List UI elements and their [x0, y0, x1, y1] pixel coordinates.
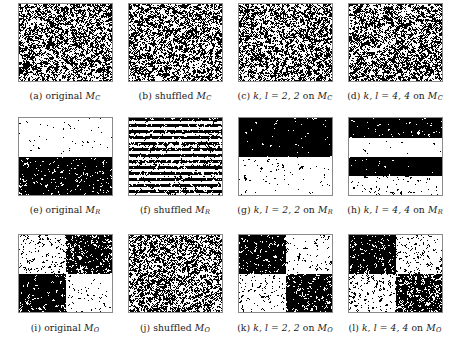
- panel-d: (d) k, l = 4, 4 on MC: [340, 0, 450, 114]
- panel-tag-e: (e): [30, 204, 43, 215]
- panel-symbol-g: M: [318, 204, 328, 215]
- panel-e: (e) original MR: [10, 114, 120, 228]
- matrix-canvas-l: [349, 235, 442, 312]
- panel-i: (i) original MO: [10, 228, 120, 342]
- panel-l: (l) k, l = 4, 4 on MO: [340, 228, 450, 342]
- matrix-image-c: [238, 3, 333, 82]
- panel-symbol-c: M: [317, 90, 327, 101]
- matrix-image-l: [348, 234, 443, 313]
- panel-tag-g: (g): [237, 204, 250, 215]
- panel-caption-f: (f) shuffled MR: [120, 204, 230, 218]
- panel-symbol-j: M: [195, 322, 205, 333]
- matrix-canvas-a: [19, 4, 112, 81]
- panel-label-h: on: [413, 204, 425, 215]
- panel-caption-h: (h) k, l = 4, 4 on MR: [340, 204, 450, 218]
- matrix-image-f: [128, 117, 223, 196]
- matrix-canvas-h: [349, 118, 442, 195]
- panel-label-a: original: [46, 90, 83, 101]
- matrix-canvas-b: [129, 4, 222, 81]
- panel-subscript-e: R: [95, 208, 100, 216]
- panel-tag-h: (h): [347, 204, 360, 215]
- panel-label-d: on: [413, 90, 425, 101]
- panel-tag-b: (b): [139, 90, 152, 101]
- panel-subscript-c: C: [327, 94, 332, 102]
- panel-subscript-g: R: [328, 208, 333, 216]
- panel-caption-a: (a) original MC: [10, 90, 120, 104]
- matrix-canvas-d: [349, 4, 442, 81]
- matrix-canvas-c: [239, 4, 332, 81]
- matrix-image-a: [18, 3, 113, 82]
- panel-symbol-l: M: [426, 322, 436, 333]
- panel-h: (h) k, l = 4, 4 on MR: [340, 114, 450, 228]
- panel-kl-h: k, l = 4, 4: [364, 204, 411, 215]
- panel-symbol-f: M: [195, 204, 205, 215]
- matrix-image-g: [238, 117, 333, 196]
- panel-j: (j) shuffled MO: [120, 228, 230, 342]
- panel-tag-k: (k): [237, 322, 250, 333]
- matrix-canvas-i: [19, 235, 112, 312]
- panel-kl-k: k, l = 2, 2: [253, 322, 300, 333]
- panel-c: (c) k, l = 2, 2 on MC: [230, 0, 340, 114]
- matrix-image-k: [238, 234, 333, 313]
- figure-row-mr: (e) original MR (f) shuffled MR (g) k, l…: [0, 114, 461, 228]
- panel-symbol-e: M: [85, 204, 95, 215]
- panel-subscript-f: R: [205, 208, 210, 216]
- panel-tag-d: (d): [347, 90, 360, 101]
- panel-subscript-h: R: [438, 208, 443, 216]
- panel-label-b: shuffled: [155, 90, 193, 101]
- panel-caption-l: (l) k, l = 4, 4 on MO: [340, 322, 450, 336]
- panel-subscript-k: O: [327, 326, 333, 334]
- panel-symbol-a: M: [85, 90, 95, 101]
- panel-caption-e: (e) original MR: [10, 204, 120, 218]
- panel-tag-f: (f): [140, 204, 151, 215]
- panel-subscript-j: O: [205, 326, 211, 334]
- panel-tag-l: (l): [348, 322, 358, 333]
- panel-label-e: original: [46, 204, 83, 215]
- matrix-canvas-j: [129, 235, 222, 312]
- panel-g: (g) k, l = 2, 2 on MR: [230, 114, 340, 228]
- panel-caption-k: (k) k, l = 2, 2 on MO: [230, 322, 340, 336]
- figure-panel-grid: (a) original MC (b) shuffled MC (c) k, l…: [0, 0, 461, 364]
- panel-kl-l: k, l = 4, 4: [362, 322, 409, 333]
- matrix-canvas-k: [239, 235, 332, 312]
- panel-caption-b: (b) shuffled MC: [120, 90, 230, 104]
- panel-symbol-k: M: [317, 322, 327, 333]
- figure-row-mo: (i) original MO (j) shuffled MO (k) k, l…: [0, 228, 461, 352]
- panel-subscript-i: O: [94, 326, 100, 334]
- matrix-canvas-f: [129, 118, 222, 195]
- panel-label-i: original: [44, 322, 81, 333]
- panel-label-g: on: [303, 204, 315, 215]
- matrix-image-d: [348, 3, 443, 82]
- panel-tag-i: (i): [31, 322, 41, 333]
- matrix-image-j: [128, 234, 223, 313]
- matrix-image-e: [18, 117, 113, 196]
- panel-label-k: on: [303, 322, 315, 333]
- panel-subscript-a: C: [95, 94, 100, 102]
- figure-row-mc: (a) original MC (b) shuffled MC (c) k, l…: [0, 0, 461, 114]
- panel-a: (a) original MC: [10, 0, 120, 114]
- panel-f: (f) shuffled MR: [120, 114, 230, 228]
- panel-label-f: shuffled: [154, 204, 192, 215]
- panel-kl-g: k, l = 2, 2: [254, 204, 301, 215]
- panel-tag-j: (j): [140, 322, 150, 333]
- panel-caption-c: (c) k, l = 2, 2 on MC: [230, 90, 340, 104]
- panel-kl-d: k, l = 4, 4: [364, 90, 411, 101]
- panel-label-l: on: [411, 322, 423, 333]
- panel-label-j: shuffled: [153, 322, 191, 333]
- panel-subscript-l: O: [436, 326, 442, 334]
- matrix-image-i: [18, 234, 113, 313]
- panel-symbol-d: M: [428, 90, 438, 101]
- panel-caption-d: (d) k, l = 4, 4 on MC: [340, 90, 450, 104]
- matrix-image-h: [348, 117, 443, 196]
- panel-tag-c: (c): [238, 90, 251, 101]
- panel-kl-c: k, l = 2, 2: [253, 90, 300, 101]
- panel-tag-a: (a): [30, 90, 43, 101]
- matrix-canvas-g: [239, 118, 332, 195]
- panel-k: (k) k, l = 2, 2 on MO: [230, 228, 340, 342]
- panel-caption-i: (i) original MO: [10, 322, 120, 336]
- panel-label-c: on: [303, 90, 315, 101]
- panel-subscript-b: C: [206, 94, 211, 102]
- matrix-canvas-e: [19, 118, 112, 195]
- panel-b: (b) shuffled MC: [120, 0, 230, 114]
- panel-caption-j: (j) shuffled MO: [120, 322, 230, 336]
